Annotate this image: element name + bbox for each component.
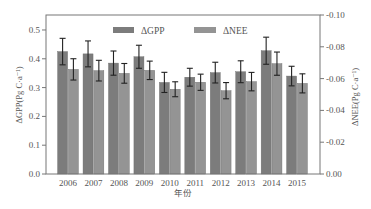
y-tick-label-left: 0.0 bbox=[29, 169, 41, 179]
x-axis-title: 年份 bbox=[174, 188, 192, 198]
x-tick-label: 2007 bbox=[84, 178, 103, 188]
y-tick-label-right: 0.00 bbox=[326, 169, 342, 179]
bar-gpp-2015 bbox=[287, 76, 297, 174]
bar-gpp-2012 bbox=[210, 73, 220, 174]
bar-nee-2013 bbox=[247, 82, 257, 174]
x-tick-label: 2013 bbox=[237, 178, 256, 188]
bar-gpp-2007 bbox=[83, 54, 93, 174]
bar-nee-2015 bbox=[297, 83, 307, 174]
bar-nee-2008 bbox=[119, 73, 129, 174]
bar-nee-2007 bbox=[94, 71, 104, 174]
bar-gpp-2008 bbox=[108, 63, 118, 174]
y-tick-label-right: -0.06 bbox=[326, 74, 345, 84]
bar-gpp-2011 bbox=[185, 77, 195, 174]
y-tick-label-left: 0.4 bbox=[29, 54, 41, 64]
bar-gpp-2009 bbox=[134, 57, 144, 174]
bar-gpp-2014 bbox=[261, 51, 271, 174]
x-tick-label: 2015 bbox=[288, 178, 307, 188]
bar-gpp-2013 bbox=[236, 72, 246, 174]
x-tick-label: 2014 bbox=[263, 178, 282, 188]
legend-swatch-gpp bbox=[113, 27, 134, 33]
x-tick-label: 2009 bbox=[135, 178, 154, 188]
bar-chart: 0.00.10.20.30.40.5 0.00-0.02-0.04-0.06-0… bbox=[0, 0, 371, 209]
legend-label-gpp: ΔGPP bbox=[141, 26, 165, 36]
x-tick-label: 2010 bbox=[161, 178, 180, 188]
y-axis-title-right: ΔNEE(Pg C·a⁻¹) bbox=[350, 68, 360, 126]
legend-label-nee: ΔNEE bbox=[223, 26, 248, 36]
y-tick-label-right: -0.02 bbox=[326, 137, 345, 147]
y-tick-label-left: 0.5 bbox=[29, 25, 41, 35]
y-axis-title-left: ΔGPP(Pg C·a⁻¹) bbox=[14, 66, 24, 123]
bar-nee-2014 bbox=[272, 64, 282, 174]
y-tick-label-right: -0.10 bbox=[326, 10, 345, 20]
bar-gpp-2006 bbox=[58, 52, 68, 174]
bar-nee-2010 bbox=[170, 89, 180, 174]
bars-layer bbox=[58, 51, 308, 174]
x-tick-label: 2012 bbox=[212, 178, 230, 188]
y-tick-label-left: 0.3 bbox=[29, 83, 41, 93]
bar-nee-2012 bbox=[221, 91, 231, 174]
legend-swatch-nee bbox=[194, 27, 216, 33]
y-tick-label-left: 0.2 bbox=[29, 111, 40, 121]
left-axis: 0.00.10.20.30.40.5 bbox=[29, 25, 46, 179]
bar-gpp-2010 bbox=[159, 82, 169, 174]
legend: ΔGPP ΔNEE bbox=[113, 26, 248, 36]
y-tick-label-right: -0.04 bbox=[326, 105, 345, 115]
bar-nee-2009 bbox=[145, 70, 155, 174]
bar-nee-2006 bbox=[68, 69, 78, 174]
x-tick-label: 2011 bbox=[186, 178, 204, 188]
right-axis: 0.00-0.02-0.04-0.06-0.08-0.10 bbox=[320, 10, 345, 179]
y-tick-label-right: -0.08 bbox=[326, 42, 345, 52]
x-axis: 2006200720082009201020112012201320142015 bbox=[59, 178, 307, 188]
x-tick-label: 2006 bbox=[59, 178, 78, 188]
bar-nee-2011 bbox=[196, 82, 206, 174]
y-tick-label-left: 0.1 bbox=[29, 140, 40, 150]
x-tick-label: 2008 bbox=[110, 178, 129, 188]
